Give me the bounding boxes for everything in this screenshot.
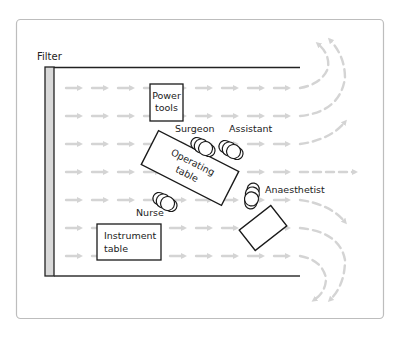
diagram-canvas: Filter Power tools Instrument table Oper… bbox=[0, 0, 401, 338]
filter-label: Filter bbox=[37, 51, 63, 62]
svg-text:tools: tools bbox=[155, 102, 178, 113]
power-tools-box: Power tools bbox=[150, 84, 183, 121]
instrument-table-box: Instrument table bbox=[97, 224, 161, 260]
svg-text:table: table bbox=[104, 243, 128, 254]
assistant-label: Assistant bbox=[229, 123, 273, 134]
filter-panel bbox=[45, 67, 54, 276]
nurse-label: Nurse bbox=[136, 207, 164, 218]
surgeon-label: Surgeon bbox=[175, 123, 215, 134]
svg-text:Power: Power bbox=[152, 90, 181, 101]
svg-text:Instrument: Instrument bbox=[104, 230, 157, 241]
anaesthetist-label: Anaesthetist bbox=[265, 184, 325, 195]
